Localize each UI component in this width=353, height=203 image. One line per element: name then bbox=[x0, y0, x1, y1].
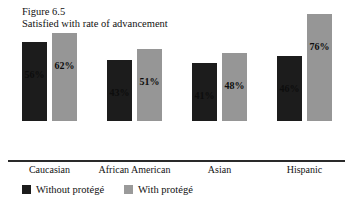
bar-light-1 bbox=[52, 33, 77, 121]
legend-swatch-icon bbox=[22, 185, 31, 194]
legend-item-1: With protégé bbox=[124, 184, 193, 195]
bar-dark-0 bbox=[22, 42, 47, 121]
x-axis-baseline bbox=[8, 160, 345, 162]
bar-chart-plot-area: 56%62%43%51%41%48%46%76% bbox=[0, 0, 353, 162]
legend-swatch-icon bbox=[124, 185, 133, 194]
bar-value-label: 62% bbox=[47, 60, 82, 71]
legend-label: Without protégé bbox=[36, 184, 104, 195]
bar-value-label: 46% bbox=[272, 83, 307, 94]
bar-value-label: 51% bbox=[132, 76, 167, 87]
legend-item-0: Without protégé bbox=[22, 184, 104, 195]
chart-legend: Without protégéWith protégé bbox=[22, 184, 213, 195]
bar-light-7 bbox=[307, 14, 332, 121]
bar-value-label: 43% bbox=[102, 87, 137, 98]
bar-value-label: 76% bbox=[302, 41, 337, 52]
bar-value-label: 41% bbox=[187, 90, 222, 101]
bar-value-label: 48% bbox=[217, 80, 252, 91]
legend-label: With protégé bbox=[138, 184, 193, 195]
category-label-3: Hispanic bbox=[245, 164, 353, 175]
